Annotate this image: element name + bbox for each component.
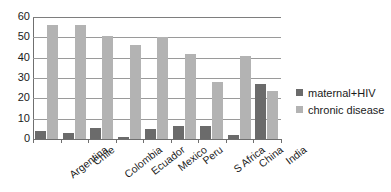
legend-item: maternal+HIV xyxy=(296,84,391,101)
x-tick-mark xyxy=(143,139,144,143)
legend-label: chronic disease xyxy=(308,104,384,116)
bar-maternal-hiv xyxy=(90,128,101,139)
chart-legend: maternal+HIVchronic disease xyxy=(296,84,391,118)
bar-group xyxy=(88,17,116,139)
x-tick-mark xyxy=(171,139,172,143)
y-tick-label: 10 xyxy=(4,113,30,124)
chart-title xyxy=(60,0,340,4)
bar-chronic-disease xyxy=(47,25,58,139)
bar-maternal-hiv xyxy=(145,129,156,139)
y-tick-label: 30 xyxy=(4,72,30,83)
bar-group xyxy=(253,17,281,139)
bar-maternal-hiv xyxy=(35,131,46,139)
bar-group xyxy=(33,17,61,139)
x-tick-mark xyxy=(33,139,34,143)
bar-chronic-disease xyxy=(212,82,223,139)
x-tick-mark xyxy=(226,139,227,143)
plot-area xyxy=(33,17,281,139)
y-tick-label: 60 xyxy=(4,11,30,22)
bar-maternal-hiv xyxy=(200,126,211,139)
bar-chronic-disease xyxy=(240,56,251,139)
bar-maternal-hiv xyxy=(118,137,129,139)
bar-maternal-hiv xyxy=(255,84,266,139)
x-axis-category-label: India xyxy=(284,144,309,167)
bar-chronic-disease xyxy=(185,54,196,139)
bar-group xyxy=(171,17,199,139)
y-tick-label: 40 xyxy=(4,52,30,63)
x-tick-mark xyxy=(88,139,89,143)
bar-chronic-disease xyxy=(130,45,141,139)
x-tick-mark xyxy=(281,139,282,143)
legend-swatch xyxy=(296,106,303,113)
bar-group xyxy=(198,17,226,139)
legend-swatch xyxy=(296,89,303,96)
x-tick-mark xyxy=(116,139,117,143)
x-axis-labels: ArgentinaChileColombiaEcuadorMexicoPeruS… xyxy=(0,144,300,192)
bar-group xyxy=(61,17,89,139)
x-axis-line xyxy=(33,139,282,140)
legend-label: maternal+HIV xyxy=(308,87,376,99)
x-tick-mark xyxy=(61,139,62,143)
x-tick-mark xyxy=(198,139,199,143)
bar-chronic-disease xyxy=(157,37,168,139)
y-tick-label: 50 xyxy=(4,31,30,42)
bar-group xyxy=(116,17,144,139)
bar-maternal-hiv xyxy=(173,126,184,139)
bar-chronic-disease xyxy=(102,36,113,139)
legend-item: chronic disease xyxy=(296,101,391,118)
bar-chronic-disease xyxy=(75,25,86,139)
bar-group xyxy=(226,17,254,139)
y-tick-label: 20 xyxy=(4,92,30,103)
x-tick-mark xyxy=(253,139,254,143)
bar-maternal-hiv xyxy=(228,135,239,139)
y-tick-label: 0 xyxy=(4,133,30,144)
bar-maternal-hiv xyxy=(63,133,74,140)
bar-group xyxy=(143,17,171,139)
bar-chronic-disease xyxy=(267,91,278,139)
bar-chart: 6050403020100 ArgentinaChileColombiaEcua… xyxy=(0,0,391,192)
